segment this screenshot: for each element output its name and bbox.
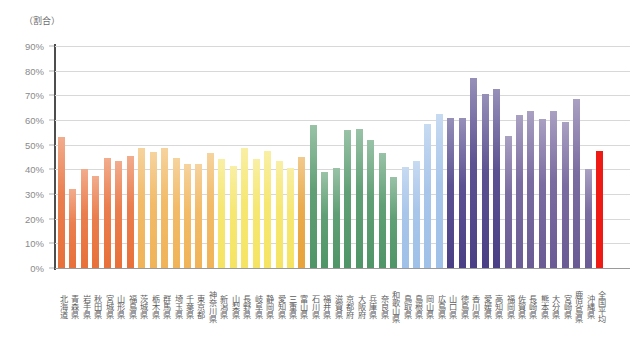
bar (298, 157, 305, 268)
bar (436, 114, 443, 268)
x-label: 北海道 (56, 272, 67, 342)
bar (115, 161, 122, 268)
bar (161, 148, 168, 268)
bar (310, 125, 317, 268)
x-label: 静岡県 (262, 272, 273, 342)
x-label: 沖縄県 (583, 272, 594, 342)
y-tick-label-30%: 30% (25, 189, 44, 200)
bar (573, 99, 580, 268)
x-label: 新潟県 (216, 272, 227, 342)
x-label: 福井県 (319, 272, 330, 342)
x-label: 京都府 (342, 272, 353, 342)
bar (218, 159, 225, 268)
bar (241, 148, 248, 268)
bar (550, 111, 557, 268)
bar (184, 164, 191, 268)
bar (516, 115, 523, 268)
x-label: 愛知県 (274, 272, 285, 342)
x-label: 高知県 (491, 272, 502, 342)
plot-area (55, 46, 630, 268)
x-label: 山梨県 (228, 272, 239, 342)
bar (402, 167, 409, 268)
bar (104, 158, 111, 268)
bar (459, 118, 466, 268)
x-label: 広島県 (434, 272, 445, 342)
y-tick-label-40%: 40% (25, 164, 44, 175)
bar (527, 111, 534, 268)
y-tick-label-70%: 70% (25, 90, 44, 101)
bar (150, 152, 157, 268)
x-axis-category-labels: 北海道青森県岩手県秋田県宮城県山形県福島県茨城県栃木県群馬県埼玉県千葉県東京都神… (55, 272, 630, 344)
bar (81, 169, 88, 268)
bar (69, 189, 76, 268)
x-label: 鹿児島県 (571, 272, 582, 342)
x-label: 群馬県 (159, 272, 170, 342)
x-label: 和歌山県 (388, 272, 399, 342)
bar (562, 122, 569, 268)
x-label: 岩手県 (79, 272, 90, 342)
x-label: 佐賀県 (514, 272, 525, 342)
x-label: 岐阜県 (251, 272, 262, 342)
bar (127, 156, 134, 268)
bar (92, 176, 99, 269)
x-label: 富山県 (296, 272, 307, 342)
x-label: 山形県 (113, 272, 124, 342)
x-label: 愛媛県 (480, 272, 491, 342)
x-label: 山口県 (445, 272, 456, 342)
bar (207, 153, 214, 268)
bar (379, 153, 386, 268)
y-tick-label-10%: 10% (25, 238, 44, 249)
x-label: 福岡県 (503, 272, 514, 342)
gridline-0% (55, 268, 630, 269)
y-tick-label-60%: 60% (25, 115, 44, 126)
x-label: 秋田県 (90, 272, 101, 342)
x-label: 島根県 (411, 272, 422, 342)
y-tick-label-0%: 0% (30, 263, 44, 274)
x-label: 栃木県 (148, 272, 159, 342)
x-label: 鳥取県 (400, 272, 411, 342)
bar (344, 130, 351, 268)
bar (596, 151, 603, 268)
x-label: 石川県 (308, 272, 319, 342)
prefecture-bar-chart: （割合） 0%10%20%30%40%50%60%70%80%90% 北海道青森… (0, 0, 639, 347)
x-label: 福島県 (125, 272, 136, 342)
x-label: 神奈川県 (205, 272, 216, 342)
bar (505, 136, 512, 268)
bars-layer (55, 46, 630, 268)
x-label: 千葉県 (182, 272, 193, 342)
bar (356, 129, 363, 268)
x-label: 香川県 (468, 272, 479, 342)
bar (58, 137, 65, 268)
x-label: 東京都 (193, 272, 204, 342)
x-label: 長崎県 (525, 272, 536, 342)
bar (424, 124, 431, 268)
bar (264, 151, 271, 268)
x-label: 宮城県 (102, 272, 113, 342)
y-tick-label-50%: 50% (25, 139, 44, 150)
y-tick-label-80%: 80% (25, 65, 44, 76)
x-label: 熊本県 (537, 272, 548, 342)
bar (195, 164, 202, 268)
x-label: 徳島県 (457, 272, 468, 342)
bar (390, 177, 397, 268)
x-label: 茨城県 (136, 272, 147, 342)
bar (321, 172, 328, 268)
bar (367, 140, 374, 268)
x-label: 兵庫県 (365, 272, 376, 342)
bar (276, 161, 283, 268)
y-tick-label-20%: 20% (25, 213, 44, 224)
x-label: 三重県 (285, 272, 296, 342)
y-tick-label-90%: 90% (25, 41, 44, 52)
x-label: 全国平均 (594, 272, 605, 342)
bar (482, 94, 489, 268)
bar (138, 148, 145, 268)
x-label: 埼玉県 (171, 272, 182, 342)
bar (253, 159, 260, 268)
bar (470, 78, 477, 268)
y-axis-tick-labels: 0%10%20%30%40%50%60%70%80%90% (0, 46, 50, 268)
x-label: 長野県 (239, 272, 250, 342)
x-label: 宮崎県 (560, 272, 571, 342)
bar (585, 169, 592, 268)
x-label: 岡山県 (422, 272, 433, 342)
x-label: 滋賀県 (331, 272, 342, 342)
